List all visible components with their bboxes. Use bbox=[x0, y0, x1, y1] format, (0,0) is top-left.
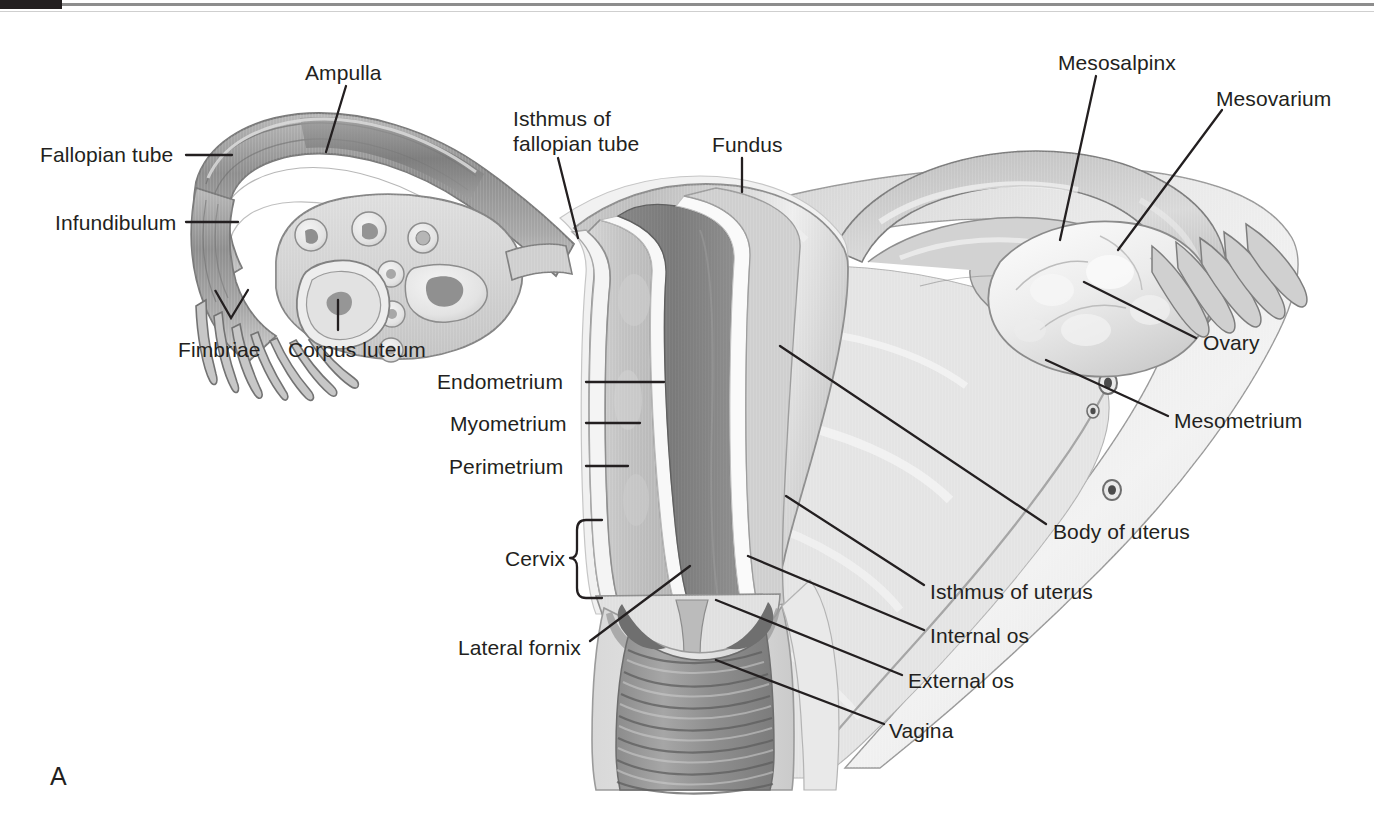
label-isthmus-of-uterus: Isthmus of uterus bbox=[930, 579, 1093, 604]
corpus-luteum bbox=[297, 260, 390, 348]
label-isthmus-of-fallopian-tube-line2: fallopian tube bbox=[513, 132, 639, 155]
label-ovary: Ovary bbox=[1203, 330, 1260, 355]
label-myometrium: Myometrium bbox=[450, 411, 567, 436]
label-endometrium: Endometrium bbox=[437, 369, 563, 394]
label-cervix: Cervix bbox=[505, 546, 565, 571]
label-corpus-luteum: Corpus luteum bbox=[288, 337, 426, 362]
label-body-of-uterus: Body of uterus bbox=[1053, 519, 1190, 544]
label-infundibulum: Infundibulum bbox=[55, 210, 176, 235]
label-ampulla: Ampulla bbox=[305, 60, 382, 85]
label-mesovarium: Mesovarium bbox=[1216, 86, 1331, 111]
label-lateral-fornix: Lateral fornix bbox=[458, 635, 581, 660]
label-fallopian-tube: Fallopian tube bbox=[40, 142, 173, 167]
label-isthmus-of-fallopian-tube: Isthmus of fallopian tube bbox=[513, 106, 639, 156]
isthmus-of-fallopian-tube-left bbox=[506, 244, 572, 280]
vessel-cross-section bbox=[1103, 480, 1121, 500]
label-fundus: Fundus bbox=[712, 132, 783, 157]
label-vagina: Vagina bbox=[889, 718, 953, 743]
label-mesometrium: Mesometrium bbox=[1174, 408, 1302, 433]
vessel-cross-section bbox=[1087, 404, 1099, 418]
anatomy-illustration bbox=[0, 0, 1374, 829]
label-perimetrium: Perimetrium bbox=[449, 454, 563, 479]
label-fimbriae: Fimbriae bbox=[178, 337, 260, 362]
label-isthmus-of-fallopian-tube-line1: Isthmus of bbox=[513, 107, 611, 130]
label-mesosalpinx: Mesosalpinx bbox=[1058, 50, 1176, 75]
anatomy-figure: Ampulla Fallopian tube Infundibulum Fimb… bbox=[0, 0, 1374, 829]
panel-letter: A bbox=[50, 762, 67, 791]
label-external-os: External os bbox=[908, 668, 1014, 693]
label-internal-os: Internal os bbox=[930, 623, 1029, 648]
